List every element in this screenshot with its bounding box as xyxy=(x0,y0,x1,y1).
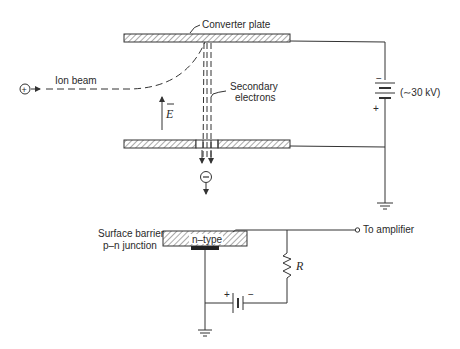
svg-text:electrons: electrons xyxy=(235,92,276,103)
svg-text:−: − xyxy=(376,73,382,84)
ion-detector-diagram: Converter plate − + (∼30 kV) + Ion xyxy=(0,0,460,349)
svg-text:Converter plate: Converter plate xyxy=(202,19,271,30)
svg-text:−: − xyxy=(248,289,254,300)
svg-text:Ion beam: Ion beam xyxy=(55,75,97,86)
svg-text:+: + xyxy=(373,103,379,114)
svg-text:(∼30 kV): (∼30 kV) xyxy=(400,87,440,98)
svg-text:+: + xyxy=(224,289,230,300)
svg-text:To amplifier: To amplifier xyxy=(363,224,415,235)
svg-text:+: + xyxy=(22,85,27,95)
electric-field-arrow: E xyxy=(162,97,174,130)
converter-plate-label: Converter plate xyxy=(190,19,271,33)
svg-text:Secondary: Secondary xyxy=(230,81,278,92)
svg-text:R: R xyxy=(295,259,304,273)
converter-plate xyxy=(124,34,290,42)
electron xyxy=(201,172,212,195)
svg-text:n–type: n–type xyxy=(192,234,222,245)
svg-text:p–n junction: p–n junction xyxy=(103,240,157,251)
svg-text:Surface barrier: Surface barrier xyxy=(98,228,165,239)
high-voltage-circuit xyxy=(290,41,395,209)
svg-text:E: E xyxy=(165,107,174,121)
surface-barrier-detector: n–type Surface barrier p–n junction xyxy=(98,228,247,251)
ion-beam: + Ion beam xyxy=(20,42,205,95)
